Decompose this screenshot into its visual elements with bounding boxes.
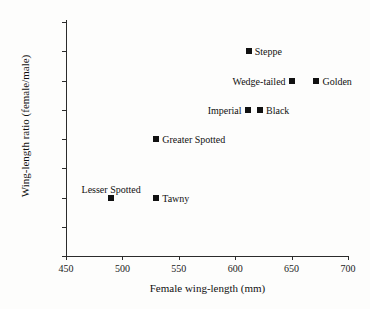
data-point-marker (313, 78, 319, 84)
x-tick-label: 650 (272, 263, 312, 274)
data-point-marker (245, 107, 251, 113)
data-point-label: Golden (322, 75, 351, 86)
data-point-label: Black (266, 104, 289, 115)
x-tick-mark (292, 256, 293, 260)
y-tick-mark (62, 139, 66, 140)
data-point-marker (153, 136, 159, 142)
data-point-label: Lesser Spotted (82, 184, 141, 195)
scatter-plot-figure: 1.021.031.041.051.061.071.081.091.10 450… (0, 0, 370, 309)
x-tick-mark (235, 256, 236, 260)
data-point-label: Greater Spotted (162, 134, 225, 145)
data-point-marker (257, 107, 263, 113)
x-axis-title: Female wing-length (mm) (66, 282, 349, 294)
y-tick-mark (62, 51, 66, 52)
data-point-marker (108, 195, 114, 201)
y-tick-mark (62, 227, 66, 228)
plot-area: 1.021.031.041.051.061.071.081.091.10 450… (66, 22, 348, 256)
x-tick-label: 600 (215, 263, 255, 274)
x-tick-label: 550 (159, 263, 199, 274)
x-tick-label: 500 (102, 263, 142, 274)
data-point-marker (153, 195, 159, 201)
y-tick-mark (62, 168, 66, 169)
data-point-label: Tawny (162, 192, 189, 203)
y-tick-mark (62, 22, 66, 23)
y-tick-mark (62, 110, 66, 111)
x-tick-mark (122, 256, 123, 260)
data-point-marker (246, 48, 252, 54)
x-tick-label: 450 (46, 263, 86, 274)
data-point-label: Wedge-tailed (233, 75, 286, 86)
x-axis-line (66, 256, 349, 257)
y-tick-mark (62, 81, 66, 82)
x-tick-mark (348, 256, 349, 260)
data-point-label: Steppe (255, 46, 282, 57)
x-tick-mark (66, 256, 67, 260)
y-axis-title: Wing-length ratio (female/male) (19, 9, 31, 243)
x-tick-mark (179, 256, 180, 260)
data-point-marker (289, 78, 295, 84)
y-tick-mark (62, 198, 66, 199)
x-tick-label: 700 (328, 263, 368, 274)
data-point-label: Imperial (208, 104, 242, 115)
